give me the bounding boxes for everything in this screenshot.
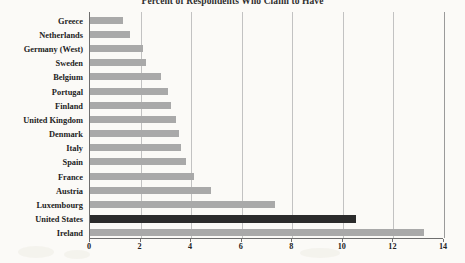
bar-sweden [90, 59, 146, 66]
tick-label-6: 6 [239, 242, 243, 252]
scan-artifact [18, 246, 54, 258]
bar-greece [90, 17, 123, 24]
bar-finland [90, 102, 171, 109]
tick-label-14: 14 [439, 242, 447, 252]
bar-denmark [90, 130, 179, 137]
category-label-germany-west: Germany (West) [0, 45, 83, 54]
tick-label-0: 0 [87, 242, 91, 252]
bar-belgium [90, 73, 161, 80]
category-label-spain: Spain [0, 158, 83, 167]
category-label-denmark: Denmark [0, 130, 83, 139]
category-label-belgium: Belgium [0, 73, 83, 82]
category-label-luxembourg: Luxembourg [0, 201, 83, 210]
category-label-france: France [0, 173, 83, 182]
plot-area [89, 12, 443, 239]
bar-luxembourg [90, 201, 275, 208]
bar-italy [90, 144, 181, 151]
category-label-united-states: United States [0, 215, 83, 224]
bar-austria [90, 187, 211, 194]
category-label-united-kingdom: United Kingdom [0, 116, 83, 125]
bar-united-kingdom [90, 116, 176, 123]
category-label-ireland: Ireland [0, 229, 83, 238]
category-label-italy: Italy [0, 144, 83, 153]
gridline-10 [343, 12, 344, 238]
category-label-finland: Finland [0, 102, 83, 111]
chart-screenshot: Percent of Respondents Who Claim to Have… [0, 0, 465, 263]
tick-label-10: 10 [338, 242, 346, 252]
gridline-14 [444, 12, 445, 238]
tick-label-4: 4 [188, 242, 192, 252]
tick-label-2: 2 [138, 242, 142, 252]
bar-spain [90, 158, 186, 165]
bar-united-states [90, 215, 356, 223]
tick-label-8: 8 [289, 242, 293, 252]
gridline-8 [292, 12, 293, 238]
category-label-portugal: Portugal [0, 88, 83, 97]
bar-germany-west [90, 45, 143, 52]
tick-label-12: 12 [388, 242, 396, 252]
bar-netherlands [90, 31, 130, 38]
category-label-netherlands: Netherlands [0, 31, 83, 40]
category-label-greece: Greece [0, 17, 83, 26]
bar-ireland [90, 229, 424, 236]
category-label-sweden: Sweden [0, 59, 83, 68]
bar-france [90, 173, 194, 180]
chart-title: Percent of Respondents Who Claim to Have [0, 0, 465, 6]
value-axis: 02468101214 [89, 239, 443, 261]
gridline-12 [393, 12, 394, 238]
bar-portugal [90, 88, 168, 95]
category-axis-labels: GreeceNetherlandsGermany (West)SwedenBel… [0, 14, 86, 247]
category-label-austria: Austria [0, 187, 83, 196]
